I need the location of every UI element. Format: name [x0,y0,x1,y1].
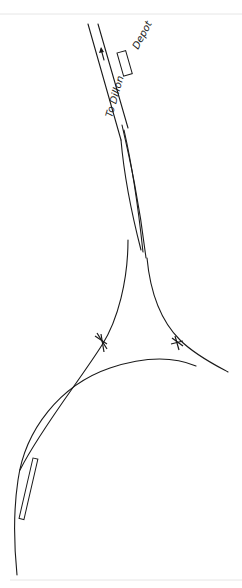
depot-label-group: Depot [130,18,154,51]
west-switch-stand [95,333,107,352]
depot-label: Depot [130,18,154,51]
direction-label-group: To Dillon [103,75,125,119]
passing-siding-east [122,125,146,258]
depot-building [117,51,132,77]
direction-label: To Dillon [103,75,125,119]
wye-west-leg [20,240,128,470]
wye-east-leg [147,258,228,372]
east-switch-stand [171,336,183,350]
wye-track-diagram: To Dillon Depot [0,0,242,588]
tail-curve [14,359,196,575]
direction-arrow-icon [99,47,104,53]
passing-siding-west [121,140,141,250]
